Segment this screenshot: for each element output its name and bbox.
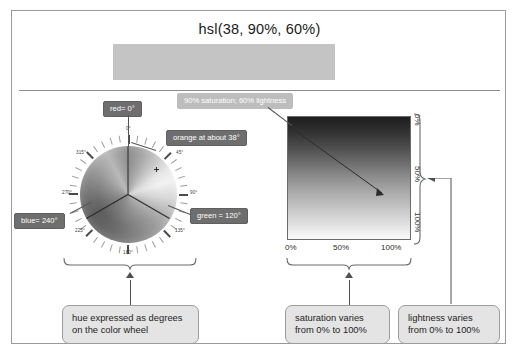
gradient-x-label-50: 50% <box>333 243 349 252</box>
lightness-description-line2: from 0% to 100% <box>408 324 490 336</box>
wheel-tick-label-270: 270° <box>62 190 72 195</box>
lightness-description-box: lightness varies from 0% to 100% <box>398 305 500 344</box>
saturation-description-line1: saturation varies <box>295 312 380 324</box>
hue-arrow-head <box>126 272 134 278</box>
callout-saturation-lightness: 90% saturation; 60% lightness <box>177 93 293 109</box>
gradient-x-axis: 0% 50% 100% <box>287 243 411 255</box>
gradient-box <box>287 116 411 240</box>
lightness-connector <box>424 178 454 308</box>
wheel-tick-label-225: 225° <box>75 228 85 233</box>
hue-marker <box>154 167 159 172</box>
wheel-tick-label-135: 135° <box>175 228 185 233</box>
saturation-description-box: saturation varies from 0% to 100% <box>285 305 390 344</box>
wheel-tick-label-180: 180° <box>123 250 133 255</box>
wheel-tick-label-45: 45° <box>176 150 183 155</box>
saturation-description-line2: from 0% to 100% <box>295 324 380 336</box>
page-title: hsl(38, 90%, 60%) <box>12 21 507 37</box>
saturation-lightness-gradient <box>287 116 411 240</box>
callout-red: red= 0° <box>103 101 142 117</box>
callout-orange: orange at about 38° <box>166 130 247 146</box>
callout-red-stem <box>128 115 129 147</box>
wheel-tick-label-90: 90° <box>190 190 197 195</box>
hue-brace <box>62 256 198 270</box>
color-wheel <box>69 135 188 254</box>
hue-description-line1: hue expressed as degrees <box>72 312 189 324</box>
radius-line-red <box>128 147 129 195</box>
color-swatch <box>113 44 335 80</box>
callout-blue: blue= 240° <box>14 213 65 229</box>
hue-description-box: hue expressed as degrees on the color wh… <box>62 305 199 344</box>
saturation-arrow-head <box>345 272 353 278</box>
hue-description-line2: on the color wheel <box>72 324 189 336</box>
callout-green: green = 120° <box>190 208 248 224</box>
lightness-description-line1: lightness varies <box>408 312 490 324</box>
gradient-x-label-100: 100% <box>381 243 401 252</box>
saturation-brace <box>285 256 413 270</box>
gradient-x-label-0: 0% <box>285 243 297 252</box>
header-divider <box>19 90 500 91</box>
wheel-tick-label-315: 315° <box>76 150 86 155</box>
figure-root: hsl(38, 90%, 60%) 0° 45° 90° 135° 180° 2… <box>0 0 517 352</box>
saturation-arrow-line <box>349 280 350 305</box>
hue-arrow-line <box>130 280 131 305</box>
